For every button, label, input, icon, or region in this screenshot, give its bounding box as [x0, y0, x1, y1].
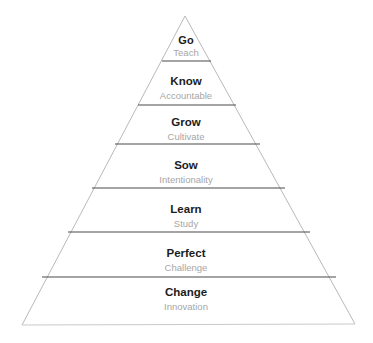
- pyramid-tier-3: Grow Cultivate: [168, 116, 205, 142]
- tier-2-subtitle: Accountable: [160, 90, 212, 101]
- pyramid-tier-6: Perfect Challenge: [165, 247, 208, 273]
- pyramid-tier-7: Change Innovation: [164, 286, 208, 312]
- tier-3-title: Grow: [171, 116, 200, 128]
- tier-2-title: Know: [170, 75, 201, 87]
- tier-5-subtitle: Study: [174, 218, 199, 229]
- pyramid-base-line: [22, 324, 355, 325]
- tier-1-title: Go: [178, 34, 194, 46]
- tier-5-title: Learn: [170, 203, 201, 215]
- tier-3-subtitle: Cultivate: [168, 131, 205, 142]
- pyramid-tier-4: Sow Intentionality: [159, 159, 213, 185]
- tier-6-title: Perfect: [167, 247, 206, 259]
- tier-6-subtitle: Challenge: [165, 262, 208, 273]
- tier-7-title: Change: [165, 286, 207, 298]
- pyramid-left-edge: [22, 16, 185, 325]
- tier-4-title: Sow: [174, 159, 198, 171]
- tier-1-subtitle: Teach: [173, 47, 198, 58]
- pyramid-tier-2: Know Accountable: [160, 75, 212, 101]
- tier-4-subtitle: Intentionality: [159, 174, 213, 185]
- pyramid-right-edge: [185, 16, 355, 324]
- tier-7-subtitle: Innovation: [164, 301, 208, 312]
- pyramid-tier-1: Go Teach: [173, 34, 198, 58]
- growth-pyramid-diagram: Go Teach Know Accountable Grow Cultivate…: [0, 0, 373, 343]
- pyramid-tier-5: Learn Study: [170, 203, 201, 229]
